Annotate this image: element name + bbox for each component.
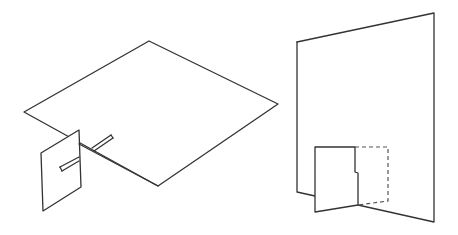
folded-card: [315, 147, 358, 212]
small-card: [41, 130, 81, 211]
left-model: [24, 41, 278, 211]
sheet-edge-front: [79, 144, 158, 186]
vertical-panel-left-edge: [297, 42, 315, 196]
unfolded-card-dashed-outline: [355, 147, 388, 205]
diagram-svg: [0, 0, 458, 235]
sheet-slot-rod: [92, 135, 113, 151]
diagram-canvas: [0, 0, 458, 235]
right-model: [297, 13, 434, 222]
